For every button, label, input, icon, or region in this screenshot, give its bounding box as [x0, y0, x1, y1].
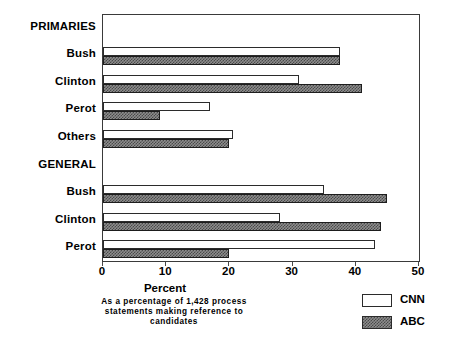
footnote-line-2: statements making reference to: [0, 307, 348, 317]
bar-abc-general-bush: [103, 194, 387, 203]
x-tick-label-20: 20: [222, 265, 235, 277]
x-tick-label-40: 40: [348, 265, 361, 277]
plot-area: [102, 14, 420, 262]
chart-footnote: As a percentage of 1,428 processstatemen…: [0, 297, 348, 327]
bar-abc-primaries-bush: [103, 56, 340, 65]
legend-item-abc[interactable]: ABC: [362, 314, 458, 336]
footnote-line-3: candidates: [0, 317, 348, 327]
bar-abc-primaries-perot: [103, 111, 160, 120]
category-label-primaries-0: PRIMARIES: [0, 20, 96, 32]
category-label-perot-8: Perot: [0, 240, 96, 252]
bar-cnn-general-perot: [103, 240, 375, 249]
category-label-clinton-7: Clinton: [0, 213, 96, 225]
legend-swatch-cnn: [362, 294, 392, 307]
category-axis-labels: PRIMARIESBushClintonPerotOthersGENERALBu…: [0, 14, 96, 262]
bar-chart: PRIMARIESBushClintonPerotOthersGENERALBu…: [0, 0, 460, 343]
legend-label-cnn: CNN: [400, 293, 425, 305]
legend-label-abc: ABC: [400, 315, 425, 327]
x-tick-label-30: 30: [285, 265, 298, 277]
category-label-bush-1: Bush: [0, 47, 96, 59]
bar-abc-general-perot: [103, 249, 229, 258]
category-label-bush-6: Bush: [0, 185, 96, 197]
bar-cnn-primaries-others: [103, 130, 233, 139]
bar-cnn-primaries-perot: [103, 102, 210, 111]
bar-abc-general-clinton: [103, 222, 381, 231]
category-label-others-4: Others: [0, 130, 96, 142]
bar-cnn-primaries-clinton: [103, 75, 299, 84]
legend-item-cnn[interactable]: CNN: [362, 292, 458, 314]
x-axis-tick-labels: 01020304050: [0, 265, 460, 281]
category-label-perot-3: Perot: [0, 102, 96, 114]
bar-cnn-primaries-bush: [103, 47, 340, 56]
category-label-clinton-2: Clinton: [0, 75, 96, 87]
footnote-line-1: As a percentage of 1,428 process: [0, 297, 348, 307]
bar-cnn-general-bush: [103, 185, 324, 194]
x-tick-label-50: 50: [412, 265, 425, 277]
x-axis-title: Percent: [0, 282, 330, 294]
x-tick-label-0: 0: [99, 265, 105, 277]
legend-swatch-abc: [362, 316, 392, 329]
x-tick-label-10: 10: [159, 265, 172, 277]
bar-abc-primaries-others: [103, 139, 229, 148]
legend: CNNABC: [362, 292, 458, 336]
bar-abc-primaries-clinton: [103, 84, 362, 93]
category-label-general-5: GENERAL: [0, 158, 96, 170]
bar-cnn-general-clinton: [103, 213, 280, 222]
